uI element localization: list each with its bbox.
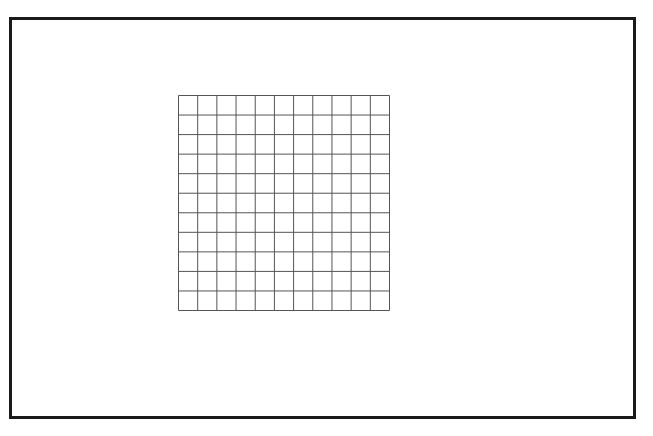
grid-lines: [178, 95, 391, 312]
square-grid: [178, 95, 391, 312]
